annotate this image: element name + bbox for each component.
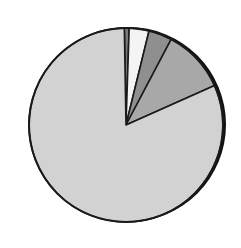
legend-clipped [0,242,241,248]
pie-chart [0,0,241,248]
